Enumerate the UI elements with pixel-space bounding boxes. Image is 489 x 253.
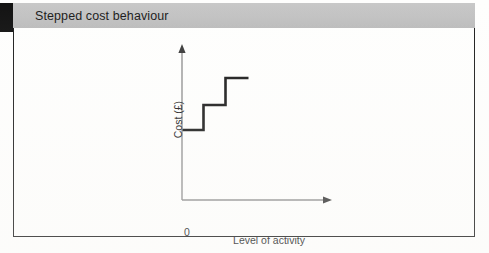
figure-caption-text: Stepped cost behaviour [35, 9, 169, 23]
stepped-cost-curve [183, 78, 249, 130]
figure-page: Stepped cost behaviour Cost (£) Level of… [0, 0, 489, 253]
y-axis-arrowhead [178, 44, 185, 53]
x-axis [182, 197, 332, 204]
step-chart-svg [13, 28, 475, 237]
x-axis-arrowhead [323, 197, 332, 204]
chart-plot-area: Cost (£) Level of activity 0 [13, 28, 475, 237]
page-edge-marker [0, 3, 13, 32]
x-axis-label: Level of activity [219, 234, 319, 246]
y-axis-label-text: Cost (£) [173, 101, 184, 138]
figure-caption-bar: Stepped cost behaviour [13, 3, 475, 28]
origin-label: 0 [182, 226, 192, 238]
step-path [183, 78, 249, 130]
y-axis-label: Cost (£) [173, 112, 184, 138]
